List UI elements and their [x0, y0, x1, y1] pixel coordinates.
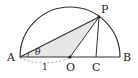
label-a: A: [6, 51, 16, 64]
label-p: P: [101, 3, 109, 16]
label-b: B: [123, 51, 131, 64]
semicircle-diagram: A B O C P θ 1: [0, 0, 138, 78]
label-o: O: [66, 61, 75, 74]
point-p: [98, 16, 101, 19]
label-c: C: [92, 61, 100, 74]
center-point-o: [68, 55, 71, 58]
diagram-canvas: A B O C P θ 1: [0, 0, 138, 78]
label-theta: θ: [35, 47, 41, 57]
label-length-1: 1: [42, 62, 48, 72]
segment-pc: [96, 17, 99, 57]
